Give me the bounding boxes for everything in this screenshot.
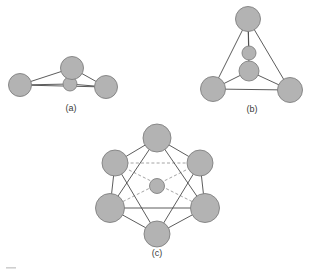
panel-b: (b) [201, 7, 303, 115]
atom-a-top [61, 57, 84, 80]
panel-label-a: (a) [66, 103, 77, 113]
atom-b-right [278, 78, 303, 103]
atom-b-inner-top [242, 46, 256, 60]
figure-svg: (a) (b) [0, 0, 316, 275]
atom-a-left [9, 74, 32, 97]
figure-canvas: (a) (b) [0, 0, 316, 275]
atom-c-lower-right [191, 194, 220, 223]
atom-c-top [143, 124, 171, 152]
panel-c-atoms [96, 124, 220, 247]
atom-c-bottom [144, 221, 170, 247]
atom-c-lower-left [96, 194, 125, 223]
scan-artifact-mark [6, 267, 16, 269]
atom-a-right [95, 76, 118, 99]
panel-b-atoms [201, 7, 303, 103]
atom-c-upper-left [102, 150, 128, 176]
panel-c: (c) [96, 124, 220, 258]
panel-label-b: (b) [247, 104, 258, 114]
panel-a: (a) [9, 57, 118, 114]
atom-b-left [201, 77, 226, 102]
atom-b-top [236, 7, 261, 32]
atom-c-upper-right [187, 150, 213, 176]
panel-label-c: (c) [152, 248, 163, 258]
atom-c-centre [150, 179, 165, 194]
atom-b-inner [239, 61, 259, 81]
panel-a-atoms [9, 57, 118, 99]
